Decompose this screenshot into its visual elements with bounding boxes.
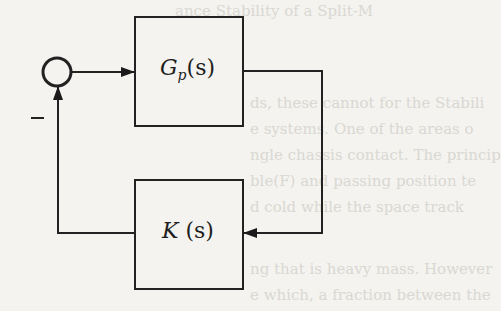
controller-label: K (s) — [162, 218, 214, 243]
feedback-signal-line — [58, 87, 135, 233]
controller-label-main: K — [162, 218, 178, 243]
controller-label-arg: (s) — [178, 218, 213, 243]
plant-label: Gp(s) — [160, 55, 215, 83]
output-signal-line — [243, 71, 322, 233]
minus-sign — [31, 117, 44, 119]
plant-label-sub: p — [178, 67, 187, 83]
summing-junction — [43, 58, 71, 86]
plant-label-main: G — [160, 55, 178, 80]
plant-label-arg: (s) — [187, 55, 215, 80]
